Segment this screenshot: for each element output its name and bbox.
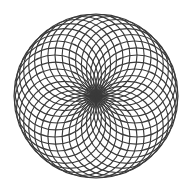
circle-rosette-diagram xyxy=(0,0,193,193)
